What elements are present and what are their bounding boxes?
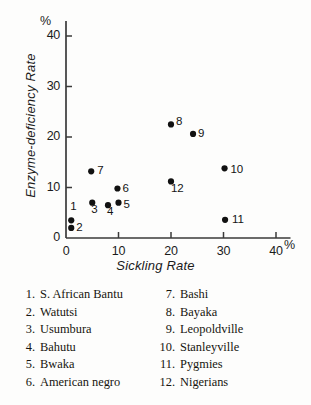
data-point-label: 7 (97, 164, 103, 176)
data-point-label: 1 (70, 200, 76, 212)
y-axis-tick-label: 20 (34, 129, 60, 143)
legend-item-number: 8. (156, 304, 180, 322)
legend-item-number: 11. (156, 356, 180, 374)
legend-item-name: Bahutu (40, 339, 76, 357)
legend-item: 11.Pygmies (156, 356, 301, 374)
legend-item: 1.S. African Bantu (16, 286, 156, 304)
x-axis-tick-label: 0 (53, 244, 79, 258)
legend-item-name: Bwaka (40, 356, 74, 374)
legend: 1.S. African Bantu2.Watutsi3.Usumbura4.B… (0, 286, 311, 405)
legend-item: 10.Stanleyville (156, 339, 301, 357)
data-point-label: 10 (231, 163, 243, 175)
data-point-label: 6 (122, 182, 128, 194)
legend-column-left: 1.S. African Bantu2.Watutsi3.Usumbura4.B… (16, 286, 156, 405)
legend-item-name: Watutsi (40, 304, 78, 322)
data-point-label: 9 (198, 127, 204, 139)
legend-item: 9.Leopoldville (156, 321, 301, 339)
data-point-label: 11 (232, 213, 244, 225)
legend-item-number: 1. (16, 286, 40, 304)
data-point-label: 12 (171, 182, 183, 194)
y-axis-tick-label: 10 (34, 180, 60, 194)
legend-item: 6.American negro (16, 374, 156, 392)
legend-item-name: Bayaka (180, 304, 217, 322)
legend-item-name: Nigerians (180, 374, 228, 392)
data-point-marker[interactable] (168, 121, 174, 127)
legend-item-name: Bashi (180, 286, 208, 304)
legend-item: 4.Bahutu (16, 339, 156, 357)
data-point-label: 2 (76, 221, 82, 233)
data-point-label: 8 (176, 115, 182, 127)
legend-item-number: 6. (16, 374, 40, 392)
legend-item: 2.Watutsi (16, 304, 156, 322)
legend-item-number: 7. (156, 286, 180, 304)
legend-item: 12.Nigerians (156, 374, 301, 392)
y-axis-tick-label: 0 (34, 230, 60, 244)
legend-item-name: Leopoldville (180, 321, 243, 339)
data-point-marker[interactable] (221, 165, 227, 171)
legend-item-number: 2. (16, 304, 40, 322)
chart-plot-area: % % Enzyme-deficiency Rate Sickling Rate… (0, 0, 311, 282)
legend-item-number: 5. (16, 356, 40, 374)
data-point-marker[interactable] (68, 225, 74, 231)
legend-column-right: 7.Bashi8.Bayaka9.Leopoldville10.Stanleyv… (156, 286, 301, 405)
y-axis-unit-label: % (40, 14, 51, 28)
legend-item-name: Stanleyville (180, 339, 239, 357)
legend-item-name: Pygmies (180, 356, 223, 374)
legend-item-number: 3. (16, 321, 40, 339)
data-point-marker[interactable] (115, 200, 121, 206)
y-axis-tick-label: 30 (34, 79, 60, 93)
y-axis-tick-label: 40 (34, 28, 60, 42)
legend-item-number: 12. (156, 374, 180, 392)
data-point-label: 3 (91, 203, 97, 215)
legend-item-name: American negro (40, 374, 120, 392)
legend-item-number: 4. (16, 339, 40, 357)
data-point-marker[interactable] (114, 185, 120, 191)
legend-item: 5.Bwaka (16, 356, 156, 374)
legend-item-number: 9. (156, 321, 180, 339)
legend-item-name: S. African Bantu (40, 286, 123, 304)
x-axis-title: Sickling Rate (0, 258, 311, 273)
x-axis-tick-label: 10 (106, 244, 132, 258)
x-axis-tick-label: 20 (158, 244, 184, 258)
data-point-marker[interactable] (190, 131, 196, 137)
legend-item: 8.Bayaka (156, 304, 301, 322)
scatter-plot-figure: % % Enzyme-deficiency Rate Sickling Rate… (0, 0, 311, 405)
x-axis-tick-label: 30 (211, 244, 237, 258)
legend-item-number: 10. (156, 339, 180, 357)
data-point-marker[interactable] (68, 217, 74, 223)
x-axis-tick-label: 40 (263, 244, 289, 258)
legend-item: 3.Usumbura (16, 321, 156, 339)
data-point-marker[interactable] (222, 217, 228, 223)
data-point-marker[interactable] (88, 168, 94, 174)
legend-item: 7.Bashi (156, 286, 301, 304)
data-point-label: 5 (124, 198, 130, 210)
data-point-label: 4 (107, 205, 113, 217)
legend-item-name: Usumbura (40, 321, 92, 339)
